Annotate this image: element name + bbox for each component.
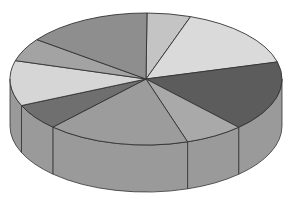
pie-chart-3d: [0, 0, 292, 200]
pie-top-face: [10, 13, 282, 145]
